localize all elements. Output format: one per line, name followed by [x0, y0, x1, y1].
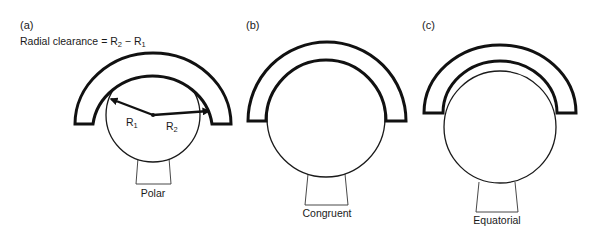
pedestal-b	[305, 174, 348, 205]
panel-c-letter: (c)	[422, 19, 435, 31]
r1-sub: 1	[134, 121, 138, 130]
caption-polar: Polar	[141, 187, 166, 199]
panel-b: (b) Congruent	[246, 19, 406, 219]
equation-sub-1: 1	[142, 40, 146, 49]
r2-sub: 2	[174, 125, 178, 134]
journal-circle-c	[444, 71, 556, 183]
panel-c: (c) Equatorial	[422, 19, 576, 226]
panel-a: (a) Radial clearance = R2 − R1 R1 R2 Pol…	[20, 19, 231, 199]
panel-b-letter: (b)	[246, 19, 259, 31]
caption-congruent: Congruent	[302, 207, 351, 219]
panel-a-letter: (a)	[20, 19, 33, 31]
equation-prefix: Radial clearance = R	[20, 35, 118, 47]
clearance-diagram: (a) Radial clearance = R2 − R1 R1 R2 Pol…	[0, 0, 596, 235]
equation-minus: − R	[122, 35, 142, 47]
radial-clearance-equation: Radial clearance = R2 − R1	[20, 35, 146, 49]
center-point	[151, 113, 155, 117]
pedestal-c	[476, 182, 518, 212]
caption-equatorial: Equatorial	[473, 214, 520, 226]
